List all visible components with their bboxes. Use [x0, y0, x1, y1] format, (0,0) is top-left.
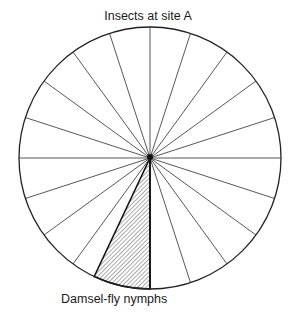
center-dot [147, 154, 153, 160]
grid-spoke-14 [25, 158, 150, 198]
grid-spoke-17 [44, 81, 150, 158]
grid-spoke-3 [150, 81, 256, 158]
grid-spoke-16 [25, 118, 150, 158]
grid-spoke-8 [150, 158, 227, 264]
grid-spoke-2 [150, 52, 227, 158]
grid-spoke-7 [150, 158, 256, 235]
grid-spoke-1 [150, 33, 190, 158]
grid-spoke-9 [150, 158, 190, 283]
grid-spoke-4 [150, 118, 275, 158]
pie-chart [0, 0, 296, 313]
slice-label-damsel-fly-nymphs: Damsel-fly nymphs [61, 292, 167, 306]
grid-spoke-18 [73, 52, 150, 158]
grid-spoke-6 [150, 158, 275, 198]
grid-spoke-19 [110, 33, 150, 158]
